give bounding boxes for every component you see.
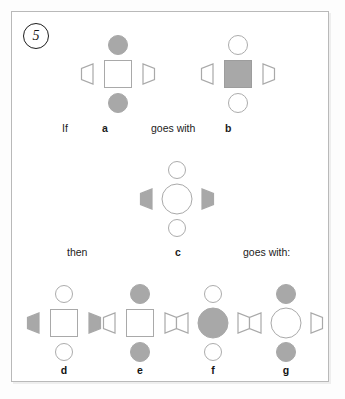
caption-c: c <box>175 246 181 258</box>
figure-a-left-trapezoid-icon <box>80 63 94 85</box>
figure-a-right-trapezoid-icon <box>142 63 156 85</box>
figure-c-left-trapezoid-icon <box>139 188 153 210</box>
figure-e-top-circle <box>130 284 150 304</box>
figure-e-center-square <box>126 309 154 337</box>
figure-g-top-circle <box>276 284 296 304</box>
figure-g-bottom-circle <box>276 342 296 362</box>
figure-a-bottom-circle <box>108 93 128 113</box>
figure-b-top-circle <box>228 35 248 55</box>
figure-c-right-trapezoid-icon <box>201 188 215 210</box>
puzzle-frame: 5 <box>11 11 329 382</box>
figure-e-bottom-circle <box>130 342 150 362</box>
text-goes-with: goes with <box>151 122 195 134</box>
figure-f-top-circle <box>204 285 222 303</box>
figure-f-left-trapezoid-icon <box>175 312 189 334</box>
figure-d[interactable] <box>21 283 107 363</box>
puzzle-page: 5 <box>0 0 345 399</box>
question-number-badge: 5 <box>23 23 49 49</box>
figure-a[interactable] <box>75 34 161 114</box>
figure-d-top-circle <box>55 285 73 303</box>
figure-f-bottom-circle <box>204 343 222 361</box>
figure-g[interactable] <box>243 283 329 363</box>
figure-d-left-trapezoid-icon <box>26 312 40 334</box>
figure-a-top-circle <box>108 35 128 55</box>
figure-c[interactable] <box>134 159 220 239</box>
figure-e-left-trapezoid-icon <box>102 312 116 334</box>
figure-b[interactable] <box>195 34 281 114</box>
figure-g-center-circle <box>271 308 302 339</box>
figure-b-left-trapezoid-icon <box>200 63 214 85</box>
figure-d-bottom-circle <box>55 343 73 361</box>
text-then: then <box>67 246 87 258</box>
figure-d-center-square <box>50 309 78 337</box>
figure-c-center-circle <box>162 184 193 215</box>
figure-g-right-trapezoid-icon <box>310 312 324 334</box>
caption-a: a <box>102 122 108 134</box>
figure-g-left-trapezoid-icon <box>248 312 262 334</box>
figure-f-center-circle <box>198 308 229 339</box>
figure-a-center-square <box>104 60 132 88</box>
caption-b: b <box>225 122 231 134</box>
caption-g: g <box>243 364 329 376</box>
figure-b-bottom-circle <box>228 93 248 113</box>
text-goes-with-colon: goes with: <box>243 246 290 258</box>
caption-d: d <box>21 364 107 376</box>
question-number-text: 5 <box>33 29 40 43</box>
figure-b-right-trapezoid-icon <box>262 63 276 85</box>
text-if: If <box>62 122 68 134</box>
figure-c-top-circle <box>168 161 186 179</box>
figure-c-bottom-circle <box>168 219 186 237</box>
figure-b-center-square <box>224 60 252 88</box>
